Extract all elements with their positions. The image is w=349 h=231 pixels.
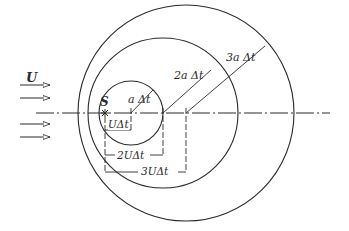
radius-label-2: 2a Δt (174, 70, 203, 81)
displacement-label-3: 3UΔt (141, 166, 168, 177)
radius-label-1: a Δt (128, 94, 150, 105)
displacement-label-1: UΔt (108, 119, 129, 130)
flow-arrows (20, 85, 50, 137)
flow-velocity-label: U (26, 71, 37, 84)
wavefront-diagram (0, 0, 349, 231)
displacement-label-2: 2UΔt (117, 150, 144, 161)
source-star-icon (101, 109, 109, 117)
source-label: S (100, 96, 109, 108)
diagram-canvas: U S a Δt 2a Δt 3a Δt UΔt 2UΔt 3UΔt (0, 0, 349, 231)
radius-label-3: 3a Δt (226, 52, 255, 63)
